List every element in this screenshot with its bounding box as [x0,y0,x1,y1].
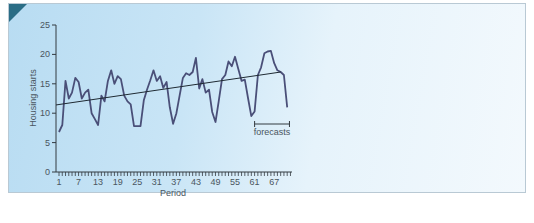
y-tick-label: 20 [40,49,50,59]
x-tick-label: 31 [152,177,162,187]
x-tick-label: 37 [171,177,181,187]
x-axis-title: Period [160,188,186,198]
housing-starts-line [59,51,287,132]
y-tick-label: 10 [40,108,50,118]
x-tick-label: 61 [250,177,260,187]
x-tick-label: 7 [76,177,81,187]
housing-starts-chart: 05101520251713192531374349556167PeriodHo… [0,0,534,223]
x-tick-label: 55 [230,177,240,187]
forecasts-label: forecasts [254,127,291,137]
y-tick-label: 15 [40,79,50,89]
x-tick-label: 49 [210,177,220,187]
x-tick-label: 19 [113,177,123,187]
x-tick-label: 67 [269,177,279,187]
x-tick-label: 43 [191,177,201,187]
x-tick-label: 1 [56,177,61,187]
y-tick-label: 25 [40,20,50,30]
x-tick-label: 25 [132,177,142,187]
y-axis-title: Housing starts [28,69,38,127]
y-tick-label: 0 [45,167,50,177]
y-tick-label: 5 [45,138,50,148]
x-tick-label: 13 [93,177,103,187]
